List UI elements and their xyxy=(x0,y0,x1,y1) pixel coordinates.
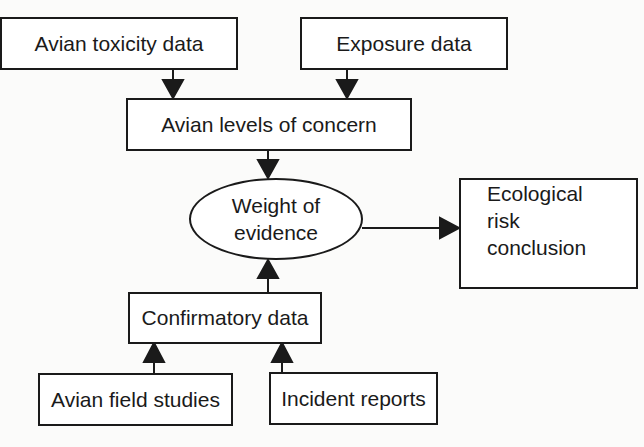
arrow-head-confirmatory-to-woe xyxy=(258,260,278,278)
arrow-head-incident-to-confirmatory xyxy=(272,343,292,362)
node-label-line1: Weight of xyxy=(232,192,320,219)
node-label-line1: Ecological xyxy=(487,180,583,207)
node-label-line2: risk xyxy=(487,207,520,234)
node-confirmatory-data: Confirmatory data xyxy=(128,292,322,344)
node-avian-toxicity-data: Avian toxicity data xyxy=(0,17,238,70)
node-avian-levels-of-concern: Avian levels of concern xyxy=(126,98,412,151)
node-label-line2: evidence xyxy=(234,219,318,246)
node-label-line3: conclusion xyxy=(487,234,586,261)
arrow-head-toxicity-to-loc xyxy=(163,80,183,98)
node-label: Avian levels of concern xyxy=(161,113,377,137)
arrow-head-woe-to-risk xyxy=(440,218,459,238)
node-label: Confirmatory data xyxy=(142,306,309,330)
node-label: Avian toxicity data xyxy=(35,32,204,56)
node-weight-of-evidence: Weight of evidence xyxy=(189,178,363,260)
node-label: Avian field studies xyxy=(51,388,220,412)
arrow-head-field-to-confirmatory xyxy=(144,343,164,362)
node-ecological-risk-conclusion: Ecological risk conclusion xyxy=(459,178,638,289)
node-avian-field-studies: Avian field studies xyxy=(38,373,233,426)
node-incident-reports: Incident reports xyxy=(269,372,438,425)
arrow-head-exposure-to-loc xyxy=(337,80,357,98)
node-exposure-data: Exposure data xyxy=(300,17,508,70)
arrow-head-loc-to-woe xyxy=(258,160,278,178)
node-label: Incident reports xyxy=(281,387,426,411)
node-label: Exposure data xyxy=(336,32,471,56)
